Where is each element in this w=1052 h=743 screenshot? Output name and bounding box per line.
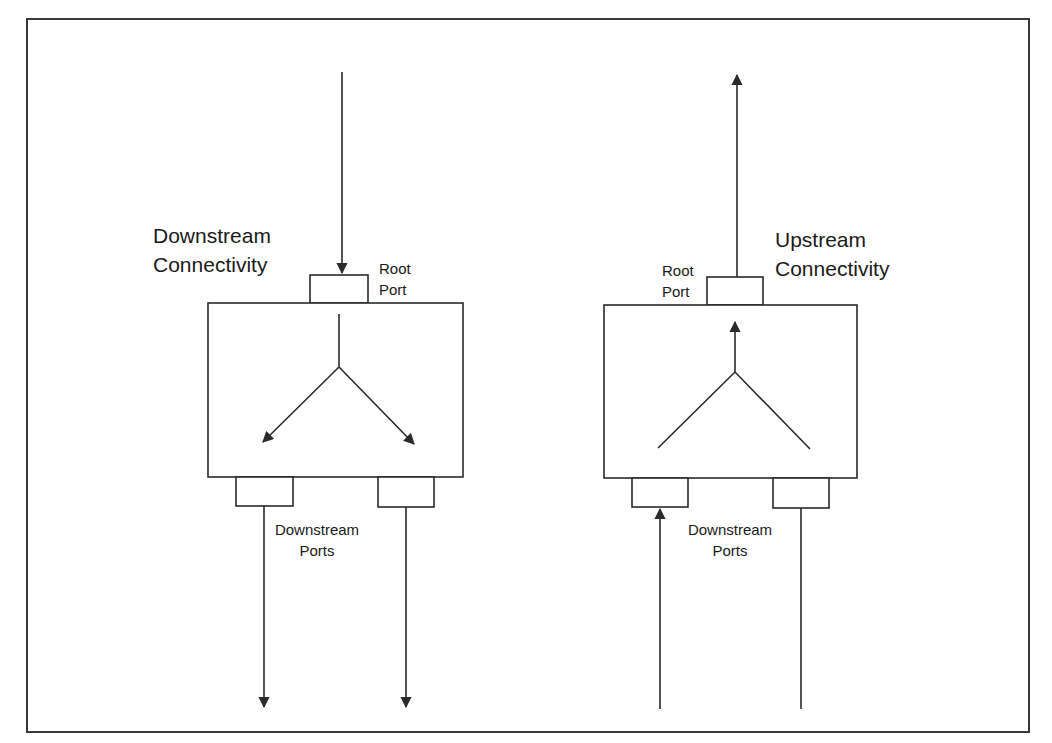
upstream-root-port-label-line1: Root — [662, 262, 695, 279]
upstream-port-right — [773, 478, 829, 508]
upstream-ports-label-line2: Ports — [712, 542, 747, 559]
downstream-root-port-label-line2: Port — [379, 281, 407, 298]
downstream-panel: Downstream Connectivity Root Port Downst… — [153, 72, 463, 707]
downstream-port-left — [236, 477, 293, 506]
downstream-port-right — [378, 477, 434, 507]
upstream-ports-label-line1: Downstream — [688, 521, 772, 538]
upstream-root-port-label-line2: Port — [662, 283, 690, 300]
downstream-ports-label-line2: Ports — [299, 542, 334, 559]
downstream-ports-label-line1: Downstream — [275, 521, 359, 538]
connectivity-diagram: Downstream Connectivity Root Port Downst… — [0, 0, 1052, 743]
upstream-title-line1: Upstream — [775, 228, 866, 251]
upstream-title-line2: Connectivity — [775, 257, 890, 280]
downstream-root-port — [310, 275, 368, 303]
upstream-panel: Upstream Connectivity Root Port Downstre… — [604, 75, 890, 709]
upstream-root-port — [707, 277, 763, 305]
downstream-title-line2: Connectivity — [153, 253, 268, 276]
upstream-switch-box — [604, 305, 857, 478]
figure-frame — [27, 19, 1029, 732]
downstream-root-port-label-line1: Root — [379, 260, 412, 277]
downstream-title-line1: Downstream — [153, 224, 271, 247]
upstream-port-left — [632, 478, 688, 507]
downstream-switch-box — [208, 303, 463, 477]
